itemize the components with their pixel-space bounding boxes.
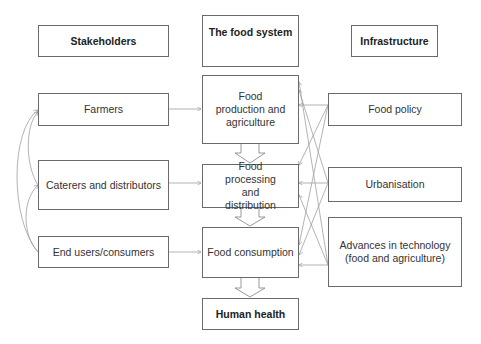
- header-infrastructure: Infrastructure: [351, 25, 438, 57]
- stakeholder-end-users: End users/consumers: [38, 236, 169, 268]
- header-stakeholders: Stakeholders: [38, 25, 169, 57]
- food-processing-distribution: Food processing and distribution: [202, 164, 299, 208]
- human-health: Human health: [202, 298, 299, 330]
- food-system-diagram: Stakeholders The food system Infrastruct…: [0, 0, 481, 344]
- food-production-agriculture: Food production and agriculture: [202, 75, 299, 144]
- stakeholder-farmers: Farmers: [38, 93, 169, 126]
- header-food-system: The food system: [202, 15, 299, 67]
- stakeholder-caterers-distributors: Caterers and distributors: [38, 160, 169, 210]
- infrastructure-urbanisation: Urbanisation: [328, 167, 462, 202]
- infrastructure-technology-advances: Advances in technology (food and agricul…: [328, 217, 462, 287]
- infrastructure-food-policy: Food policy: [328, 93, 462, 126]
- food-consumption: Food consumption: [202, 227, 299, 278]
